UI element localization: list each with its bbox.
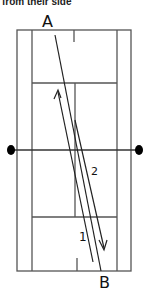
shot-line-a-to-b bbox=[55, 35, 101, 271]
left-net-post bbox=[7, 145, 15, 155]
label-b: B bbox=[99, 273, 110, 291]
label-shot-2: 2 bbox=[91, 165, 98, 178]
shot-2-line bbox=[75, 120, 104, 248]
right-net-post bbox=[135, 145, 143, 155]
tennis-court-diagram: A B 2 1 bbox=[0, 0, 151, 291]
label-shot-1: 1 bbox=[79, 230, 87, 244]
shot-1-arrowhead-icon bbox=[54, 90, 61, 99]
label-a: A bbox=[42, 12, 53, 31]
